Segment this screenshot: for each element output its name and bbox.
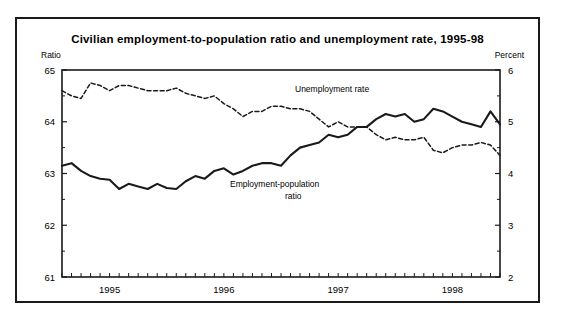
svg-text:3: 3 bbox=[508, 220, 513, 231]
svg-text:ratio: ratio bbox=[285, 191, 302, 201]
line-chart: 6162636465234561995199619971998Unemploym… bbox=[17, 19, 542, 305]
svg-text:1998: 1998 bbox=[442, 284, 463, 295]
chart-figure: Civilian employment-to-population ratio … bbox=[15, 17, 540, 303]
svg-text:1997: 1997 bbox=[328, 284, 349, 295]
svg-text:62: 62 bbox=[44, 220, 55, 231]
svg-text:64: 64 bbox=[44, 116, 55, 127]
svg-text:61: 61 bbox=[44, 272, 55, 283]
svg-text:1995: 1995 bbox=[99, 284, 120, 295]
svg-text:Employment-population: Employment-population bbox=[230, 179, 320, 189]
svg-text:1996: 1996 bbox=[213, 284, 234, 295]
svg-text:4: 4 bbox=[508, 168, 513, 179]
svg-text:6: 6 bbox=[508, 65, 513, 76]
svg-text:2: 2 bbox=[508, 272, 513, 283]
svg-text:63: 63 bbox=[44, 168, 55, 179]
svg-text:5: 5 bbox=[508, 116, 513, 127]
plot-area: 6162636465234561995199619971998Unemploym… bbox=[17, 19, 542, 305]
svg-text:Unemployment rate: Unemployment rate bbox=[295, 84, 369, 94]
svg-text:65: 65 bbox=[44, 65, 55, 76]
